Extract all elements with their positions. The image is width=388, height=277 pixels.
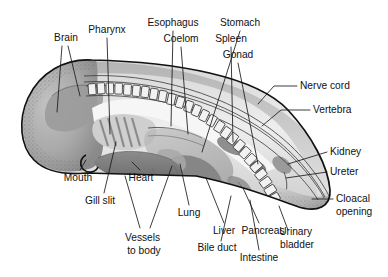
label-intestine: Intestine [240,252,279,263]
anatomy-figure: Brain Pharynx Esophagus Stomach Coelom S… [0,0,388,277]
label-spleen: Spleen [215,33,247,44]
label-gill-slit: Gill slit [85,195,115,206]
bile-duct-tube [208,184,230,196]
embryo-body [22,60,331,218]
label-brain: Brain [54,32,78,43]
label-nerve-cord: Nerve cord [300,80,350,91]
label-vertebra: Vertebra [313,104,352,115]
label-bile-duct: Bile duct [197,242,236,253]
label-kidney: Kidney [330,146,362,157]
label-stomach: Stomach [220,17,260,28]
label-mouth: Mouth [64,172,92,183]
label-urinary-bladder: Urinary bladder [279,226,315,250]
label-liver: Liver [213,225,236,236]
label-bladder-line-1: Urinary [279,226,313,237]
label-ureter: Ureter [330,166,359,177]
label-vessels-line-1: Vessels [125,232,160,243]
leader-vessels-a [125,176,140,228]
label-cloacal-line-2: opening [336,206,373,217]
leader-liver [206,178,224,223]
label-vessels-to-body: Vessels to body [125,232,163,256]
label-gonad: Gonad [223,49,254,60]
label-bladder-line-2: bladder [280,239,315,250]
label-cloacal-line-1: Cloacal [336,193,370,204]
label-pancreas: Pancreas [241,225,284,236]
label-pharynx: Pharynx [88,24,125,35]
label-vessels-line-2: to body [127,245,161,256]
label-coelom: Coelom [163,33,198,44]
label-cloacal-opening: Cloacal opening [336,193,373,217]
label-heart: Heart [129,172,154,183]
label-lung: Lung [178,207,201,218]
label-esophagus: Esophagus [148,17,199,28]
